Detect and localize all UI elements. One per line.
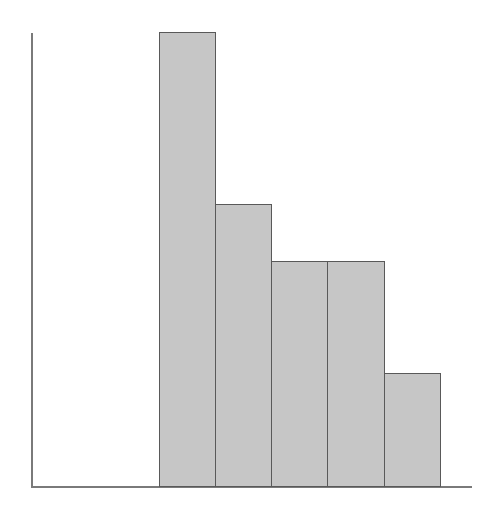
- bar-bin-1[interactable]: [159, 32, 216, 487]
- bar-bin-5[interactable]: [384, 373, 441, 487]
- histogram-chart: [0, 0, 497, 526]
- bar-bin-3[interactable]: [271, 261, 328, 487]
- plot-area: [0, 0, 497, 526]
- bar-bin-2[interactable]: [215, 204, 272, 487]
- y-axis-line: [31, 33, 33, 488]
- bar-bin-4[interactable]: [327, 261, 385, 487]
